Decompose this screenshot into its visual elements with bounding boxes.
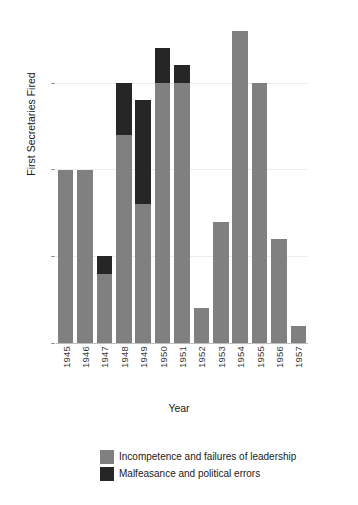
bar-segment-series-0 (135, 204, 151, 343)
x-tick-label: 1946 (80, 346, 91, 368)
bar-segment-series-0 (97, 274, 113, 343)
bar-segment-series-0 (174, 83, 190, 343)
legend-swatch-icon (100, 467, 114, 481)
bar-1946 (77, 170, 93, 344)
bar-1947 (97, 256, 113, 343)
bar-segment-series-0 (58, 170, 74, 344)
x-tick-label: 1947 (99, 346, 110, 368)
legend-item-label: Incompetence and failures of leadership (119, 451, 296, 462)
bar-segment-series-1 (135, 100, 151, 204)
bar-1957 (291, 326, 307, 343)
x-axis-title: Year (0, 402, 358, 414)
bars-layer (56, 22, 308, 343)
chart-legend: Incompetence and failures of leadership … (100, 448, 296, 482)
bar-1950 (155, 48, 171, 343)
bar-segment-series-0 (77, 170, 93, 344)
y-tick-mark (51, 343, 55, 344)
bar-1956 (271, 239, 287, 343)
y-axis-title: First Secretaries Fired (25, 29, 37, 219)
y-tick-mark (51, 169, 55, 170)
bar-segment-series-1 (174, 65, 190, 82)
x-tick-label: 1954 (235, 346, 246, 368)
legend-item: Incompetence and failures of leadership (100, 448, 296, 465)
x-tick-label: 1952 (196, 346, 207, 368)
bar-1951 (174, 65, 190, 343)
x-tick-label: 1945 (61, 346, 72, 368)
bar-segment-series-0 (213, 222, 229, 343)
x-tick-label: 1951 (177, 346, 188, 368)
y-tick-mark (51, 256, 55, 257)
y-tick-mark (51, 83, 55, 84)
axis-baseline (56, 343, 308, 344)
bar-1955 (252, 83, 268, 343)
legend-item: Malfeasance and political errors (100, 465, 296, 482)
x-tick-label: 1956 (274, 346, 285, 368)
legend-swatch-icon (100, 450, 114, 464)
bar-segment-series-1 (116, 83, 132, 135)
bar-1948 (116, 83, 132, 343)
x-tick-label: 1949 (138, 346, 149, 368)
x-axis-tick-labels: 1945194619471948194919501951195219531954… (56, 346, 308, 398)
plot-area: 051015 (56, 22, 308, 343)
bar-1952 (194, 308, 210, 343)
bar-segment-series-0 (271, 239, 287, 343)
bar-segment-series-0 (232, 31, 248, 343)
bar-1953 (213, 222, 229, 343)
x-tick-label: 1950 (158, 346, 169, 368)
bar-segment-series-0 (291, 326, 307, 343)
x-tick-label: 1957 (293, 346, 304, 368)
bar-1945 (58, 170, 74, 344)
x-tick-label: 1953 (216, 346, 227, 368)
bar-segment-series-0 (155, 83, 171, 343)
x-tick-label: 1955 (255, 346, 266, 368)
bar-segment-series-0 (116, 135, 132, 343)
bar-segment-series-1 (97, 256, 113, 273)
legend-item-label: Malfeasance and political errors (119, 468, 260, 479)
bar-segment-series-0 (194, 308, 210, 343)
bar-segment-series-0 (252, 83, 268, 343)
bar-segment-series-1 (155, 48, 171, 83)
x-tick-label: 1948 (119, 346, 130, 368)
bar-chart: First Secretaries Fired 051015 194519461… (0, 0, 358, 505)
bar-1954 (232, 31, 248, 343)
bar-1949 (135, 100, 151, 343)
